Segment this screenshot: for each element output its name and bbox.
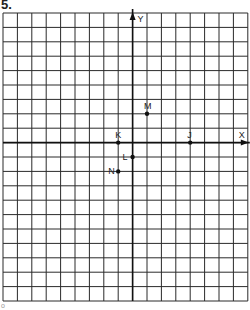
x-axis-label: X [239, 130, 245, 140]
point-n [116, 169, 120, 173]
point-label-k: K [115, 130, 121, 140]
point-m [145, 112, 149, 116]
point-label-j: J [187, 130, 192, 140]
point-label-l: L [123, 152, 128, 162]
point-k [116, 140, 120, 144]
y-axis-label: Y [138, 14, 144, 24]
coordinate-plane: YX MKJLN [0, 0, 250, 310]
point-j [188, 140, 192, 144]
point-label-n: N [108, 166, 115, 176]
point-label-m: M [144, 101, 152, 111]
footer-mark: o [1, 302, 5, 309]
point-l [130, 155, 134, 159]
points: MKJLN [108, 101, 192, 177]
